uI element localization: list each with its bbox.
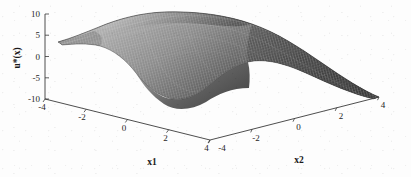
vtick-2: 0 (36, 52, 41, 62)
x2-axis-tick-labels: -4 -2 0 2 4 (218, 100, 386, 153)
vtick-1: 5 (36, 30, 41, 40)
x2-axis-label: x2 (294, 155, 304, 165)
x2tick-3: 2 (339, 111, 344, 121)
x2tick-2: 0 (296, 122, 301, 132)
surface-plot-figure: 10 5 0 -5 -10 -4 -2 0 2 4 -4 -2 0 2 4 u*… (0, 0, 411, 177)
x1-axis-label: x1 (147, 157, 157, 167)
x1tick-2: 0 (122, 123, 127, 133)
vertical-axis-label: u*(x) (12, 47, 23, 68)
x2tick-1: -2 (252, 133, 260, 143)
x1-axis-tick-labels: -4 -2 0 2 4 (38, 102, 209, 153)
x2tick-4: 4 (381, 100, 386, 110)
x1tick-4: 4 (204, 143, 209, 153)
surface-mesh (50, 8, 390, 109)
x1tick-1: -2 (78, 112, 86, 122)
vertical-axis-ticks (45, 14, 49, 99)
plot-canvas: 10 5 0 -5 -10 -4 -2 0 2 4 -4 -2 0 2 4 u*… (0, 0, 411, 177)
x1tick-0: -4 (38, 102, 46, 112)
vertical-axis-tick-labels: 10 5 0 -5 -10 (28, 9, 41, 104)
x1tick-3: 2 (163, 133, 168, 143)
x2tick-0: -4 (218, 143, 226, 153)
vtick-3: -5 (33, 73, 41, 83)
vtick-0: 10 (31, 9, 41, 19)
